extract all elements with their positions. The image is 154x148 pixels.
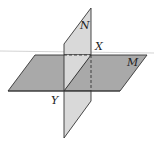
plane-n-lower xyxy=(64,91,91,138)
label-y: Y xyxy=(51,94,60,107)
label-n: N xyxy=(79,19,90,32)
label-x: X xyxy=(94,40,104,53)
planes-diagram: N X M Y xyxy=(0,0,154,148)
label-m: M xyxy=(126,56,139,69)
